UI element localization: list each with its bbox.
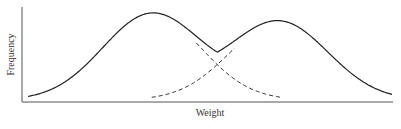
component-1-dashed-curve [196, 43, 281, 97]
y-axis-label: Frequency [5, 25, 16, 85]
component-2-dashed-curve [152, 48, 235, 97]
combined-curve [28, 13, 392, 97]
x-axis-label: Weight [180, 107, 240, 118]
